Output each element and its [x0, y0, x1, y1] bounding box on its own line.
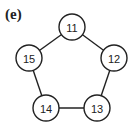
node-13: 13	[84, 95, 110, 121]
svg-text:11: 11	[66, 22, 77, 34]
node-14: 14	[33, 95, 59, 121]
node-15: 15	[16, 45, 42, 71]
svg-text:14: 14	[40, 103, 52, 115]
pentagon-graph: 1112131415	[0, 0, 130, 129]
node-12: 12	[101, 45, 127, 71]
svg-text:12: 12	[108, 53, 120, 65]
nodes: 1112131415	[16, 14, 127, 121]
node-11: 11	[59, 14, 85, 40]
svg-text:15: 15	[23, 53, 35, 65]
svg-text:13: 13	[91, 103, 103, 115]
